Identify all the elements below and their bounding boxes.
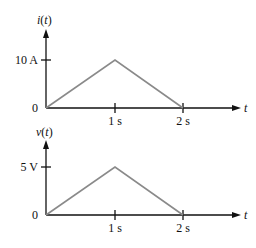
current-trace (46, 60, 183, 108)
x-axis-label: t (244, 208, 248, 222)
x-tick-label-1: 1 s (108, 221, 122, 235)
y-axis-label: v(t) (36, 125, 53, 139)
y-axis-arrow-icon (43, 140, 49, 149)
y-axis-arrow-icon (43, 29, 49, 38)
y-tick-label: 5 V (21, 160, 39, 174)
x-axis-arrow-icon (232, 212, 241, 218)
voltage-trace (46, 167, 183, 215)
zero-label: 0 (32, 208, 38, 222)
x-axis-arrow-icon (232, 105, 241, 111)
zero-label: 0 (32, 101, 38, 115)
x-axis-label: t (244, 101, 248, 115)
waveform-charts: i(t) 10 A 0 1 s 2 s t v(t) 5 V 0 1 s 2 s… (0, 0, 256, 248)
y-axis-label: i(t) (37, 13, 52, 27)
current-chart: i(t) 10 A 0 1 s 2 s t (15, 13, 248, 128)
y-tick-label: 10 A (15, 53, 38, 67)
x-tick-label-1: 1 s (108, 114, 122, 128)
x-tick-label-2: 2 s (176, 114, 190, 128)
voltage-chart: v(t) 5 V 0 1 s 2 s t (21, 125, 248, 235)
x-tick-label-2: 2 s (176, 221, 190, 235)
